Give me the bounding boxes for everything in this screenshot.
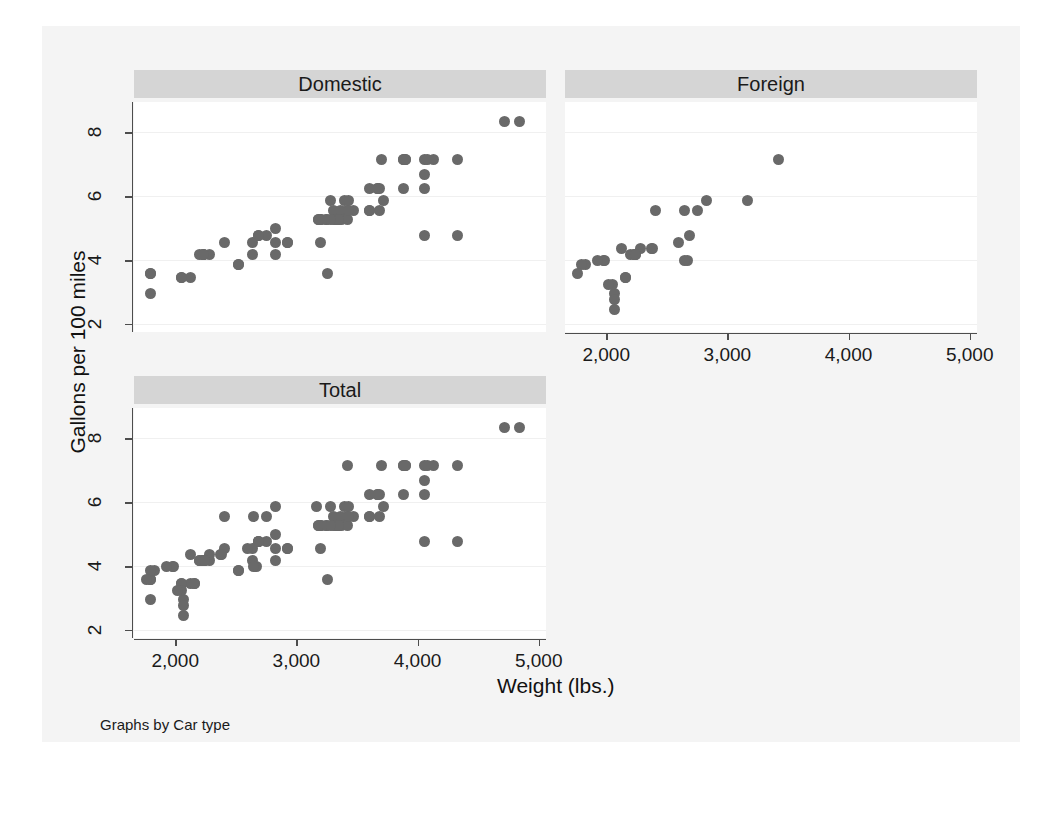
x-tick-label: 3,000	[251, 650, 341, 672]
data-point	[419, 489, 430, 500]
data-point	[400, 460, 411, 471]
data-point	[270, 249, 281, 260]
gridline	[134, 438, 546, 439]
gridline	[565, 196, 977, 197]
data-point	[376, 154, 387, 165]
data-point	[647, 243, 658, 254]
data-point	[343, 195, 354, 206]
data-point	[145, 268, 156, 279]
data-point	[311, 501, 322, 512]
panel-title-domestic: Domestic	[134, 70, 546, 98]
data-point	[419, 183, 430, 194]
x-tick-label: 4,000	[804, 344, 894, 366]
x-tick	[539, 639, 540, 646]
y-tick	[125, 438, 132, 439]
x-tick	[727, 333, 728, 340]
data-point	[400, 154, 411, 165]
y-tick-label: 4	[84, 240, 106, 280]
gridline	[565, 260, 977, 261]
data-point	[514, 116, 525, 127]
data-point	[452, 154, 463, 165]
y-tick-label: 6	[84, 482, 106, 522]
y-tick-label: 6	[84, 176, 106, 216]
data-point	[189, 578, 200, 589]
data-point	[374, 205, 385, 216]
data-point	[247, 249, 258, 260]
y-tick	[125, 502, 132, 503]
panel-title-total: Total	[134, 376, 546, 404]
data-point	[673, 237, 684, 248]
data-point	[145, 594, 156, 605]
data-point	[219, 511, 230, 522]
data-point	[282, 237, 293, 248]
gridline	[565, 324, 977, 325]
data-point	[419, 230, 430, 241]
y-tick-label: 2	[84, 610, 106, 650]
y-tick-label: 2	[84, 304, 106, 344]
data-point	[378, 501, 389, 512]
data-point	[343, 501, 354, 512]
data-point	[343, 511, 354, 522]
data-point	[773, 154, 784, 165]
panel-domestic: Domestic	[134, 70, 546, 332]
data-point	[141, 574, 152, 585]
gridline	[565, 132, 977, 133]
y-tick	[125, 196, 132, 197]
y-tick-label: 4	[84, 546, 106, 586]
data-point	[322, 268, 333, 279]
data-point	[282, 543, 293, 554]
data-point	[452, 460, 463, 471]
data-point	[178, 610, 189, 621]
data-point	[145, 288, 156, 299]
panel-foreign: Foreign	[565, 70, 977, 332]
x-tick	[849, 333, 850, 340]
data-point	[398, 183, 409, 194]
data-point	[343, 205, 354, 216]
data-point	[398, 489, 409, 500]
data-point	[499, 116, 510, 127]
data-point	[684, 230, 695, 241]
data-point	[428, 460, 439, 471]
data-point	[514, 422, 525, 433]
data-point	[679, 205, 690, 216]
data-point	[419, 475, 430, 486]
data-point	[572, 268, 583, 279]
data-point	[178, 600, 189, 611]
y-tick	[125, 260, 132, 261]
data-point	[378, 195, 389, 206]
data-point	[452, 536, 463, 547]
data-point	[609, 294, 620, 305]
x-tick	[175, 639, 176, 646]
data-point	[419, 536, 430, 547]
stata-graph-figure: Gallons per 100 miles Domestic Foreign T…	[42, 26, 1020, 742]
data-point	[499, 422, 510, 433]
gridline	[134, 566, 546, 567]
x-tick	[970, 333, 971, 340]
data-point	[176, 272, 187, 283]
plot-area-foreign	[565, 102, 977, 332]
x-tick	[606, 333, 607, 340]
x-tick-label: 2,000	[130, 650, 220, 672]
gridline	[134, 132, 546, 133]
data-point	[270, 555, 281, 566]
y-tick	[125, 132, 132, 133]
x-tick-label: 5,000	[494, 650, 584, 672]
data-point	[199, 555, 210, 566]
data-point	[261, 511, 272, 522]
data-point	[270, 237, 281, 248]
data-point	[372, 489, 383, 500]
data-point	[376, 460, 387, 471]
plot-area-domestic	[134, 102, 546, 332]
data-point	[419, 169, 430, 180]
x-tick-label: 4,000	[373, 650, 463, 672]
data-point	[428, 154, 439, 165]
graph-note: Graphs by Car type	[100, 716, 230, 733]
data-point	[342, 460, 353, 471]
x-tick-label: 5,000	[925, 344, 1015, 366]
x-tick	[296, 639, 297, 646]
x-tick-label: 2,000	[561, 344, 651, 366]
gridline	[134, 260, 546, 261]
x-tick	[418, 639, 419, 646]
data-point	[322, 574, 333, 585]
data-point	[742, 195, 753, 206]
